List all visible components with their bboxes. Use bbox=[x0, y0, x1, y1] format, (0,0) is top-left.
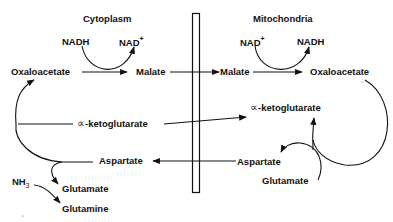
speck-mark bbox=[362, 82, 363, 83]
arrow-akg-transport bbox=[164, 117, 246, 124]
nh3-label: NH3 bbox=[12, 177, 29, 189]
aspartate-mito-label: Aspartate bbox=[237, 157, 281, 167]
oxaloacetate-cyto-label: Oxaloacetate bbox=[11, 67, 70, 77]
ketoglutarate-text: -ketoglutarate bbox=[258, 102, 321, 113]
speck-mark bbox=[22, 215, 23, 216]
mitochondria-header: Mitochondria bbox=[253, 14, 313, 24]
arrow-nad-to-nadh-mito bbox=[255, 46, 309, 69]
alpha-symbol: ∝ bbox=[77, 117, 85, 129]
malate-mito-label: Malate bbox=[220, 67, 250, 77]
arrow-nadh-to-nad-cyto bbox=[82, 46, 134, 69]
alpha-symbol: ∝ bbox=[250, 101, 258, 113]
nad-base-text: NAD bbox=[119, 37, 140, 48]
arrow-to-glutamate-cyto bbox=[52, 162, 62, 184]
arrow-aspartate-to-oaa-cyto bbox=[16, 124, 93, 162]
arrow-to-akg-mito bbox=[313, 118, 314, 150]
nad-plus-cyto-label: NAD+ bbox=[119, 36, 144, 48]
alpha-ketoglutarate-cyto-label: ∝-ketoglutarate bbox=[77, 118, 148, 129]
arrow-nh3-to-glutamine bbox=[34, 185, 60, 203]
nh-text: NH bbox=[12, 176, 26, 187]
nad-plus-sup: + bbox=[140, 35, 144, 42]
cytoplasm-header: Cytoplasm bbox=[83, 14, 132, 24]
arrow-oaa-loop-mito bbox=[313, 80, 388, 165]
diagram-arrows bbox=[0, 0, 393, 222]
nadh-cyto-label: NADH bbox=[62, 37, 89, 47]
nadh-mito-label: NADH bbox=[297, 37, 324, 47]
arrow-to-oaa-cyto bbox=[16, 80, 34, 124]
nh3-subscript: 3 bbox=[26, 182, 30, 189]
membrane-bar bbox=[193, 14, 200, 193]
nad-base-text: NAD bbox=[240, 37, 261, 48]
nad-plus-mito-label: NAD+ bbox=[240, 36, 265, 48]
alpha-ketoglutarate-mito-label: ∝-ketoglutarate bbox=[250, 102, 321, 113]
nad-plus-sup: + bbox=[261, 35, 265, 42]
glutamate-cyto-label: Glutamate bbox=[62, 184, 108, 194]
ketoglutarate-text: -ketoglutarate bbox=[85, 118, 148, 129]
malate-cyto-label: Malate bbox=[136, 67, 166, 77]
glutamate-mito-label: Glutamate bbox=[262, 176, 308, 186]
malate-aspartate-shuttle-diagram: Cytoplasm Mitochondria NADH NAD+ Oxaloac… bbox=[0, 0, 393, 222]
glutamine-label: Glutamine bbox=[62, 204, 108, 214]
aspartate-cyto-label: Aspartate bbox=[99, 156, 143, 166]
oxaloacetate-mito-label: Oxaloacetate bbox=[310, 67, 369, 77]
